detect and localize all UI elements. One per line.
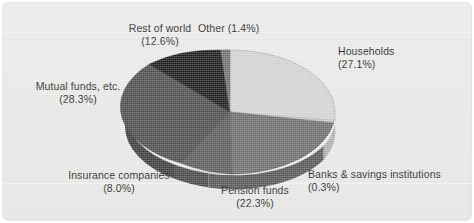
slice-top-pension-funds — [230, 112, 334, 174]
slice-label-households-value: (27.1%) — [338, 58, 458, 71]
slice-label-households: Households (27.1%) — [338, 45, 458, 70]
slice-label-pension-funds: Pension funds (22.3%) — [197, 184, 313, 209]
chart-panel: Rest of world (12.6%) Other (1.4%) House… — [2, 2, 472, 221]
slice-label-mutual-funds-name: Mutual funds, etc. — [18, 80, 138, 93]
slice-top-households — [230, 50, 335, 120]
slice-label-households-name: Households — [338, 45, 458, 58]
screenshot-root: Rest of world (12.6%) Other (1.4%) House… — [0, 0, 474, 223]
slice-label-other-name: Other (1.4%) — [198, 22, 308, 35]
slice-label-pension-funds-name: Pension funds — [197, 184, 313, 197]
slice-label-pension-funds-value: (22.3%) — [197, 197, 313, 210]
slice-label-banks-savings-name: Banks & savings institutions — [308, 168, 472, 181]
slice-label-other: Other (1.4%) — [198, 22, 308, 35]
slice-label-banks-savings-value: (0.3%) — [308, 181, 472, 194]
slice-label-banks-savings: Banks & savings institutions (0.3%) — [308, 168, 472, 193]
slice-label-rest-of-world-value: (12.6%) — [105, 35, 215, 48]
pie-chart: Rest of world (12.6%) Other (1.4%) House… — [2, 2, 472, 221]
slice-label-insurance-companies-name: Insurance companies — [45, 169, 193, 182]
slice-side-banks-savings — [324, 144, 326, 160]
slice-label-insurance-companies: Insurance companies (8.0%) — [45, 169, 193, 194]
slice-label-insurance-companies-value: (8.0%) — [45, 182, 193, 195]
slice-label-mutual-funds-value: (28.3%) — [18, 93, 138, 106]
slice-label-mutual-funds: Mutual funds, etc. (28.3%) — [18, 80, 138, 105]
